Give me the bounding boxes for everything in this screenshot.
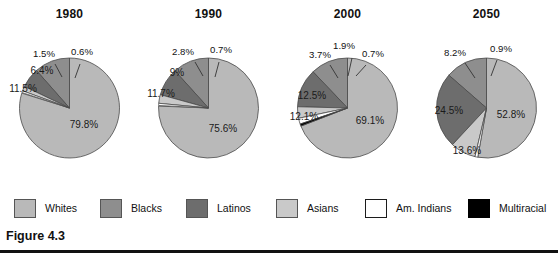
legend-swatch-blacks (100, 199, 122, 218)
pie-label-2050-whites: 52.8% (497, 109, 525, 120)
legend-label-asians: Asians (307, 202, 339, 214)
legend-swatch-am-indians (365, 199, 387, 218)
legend-item-whites: Whites (14, 196, 77, 220)
pie-chart-row: 1980 79.8% 11.5% 6.4% 1.5% 0.6% 1990 (0, 0, 558, 188)
legend-item-multiracial: Multiracial (468, 196, 546, 220)
pie-svg-2050: 52.8% 13.6% 24.5% 8.2% 0.9% (417, 20, 556, 186)
figure-divider (0, 250, 558, 253)
legend-item-asians: Asians (276, 196, 339, 220)
pie-label-1990-latinos: 9% (170, 67, 185, 78)
pie-slices-2000 (298, 58, 398, 158)
pie-label-1990-whites: 75.6% (209, 123, 237, 134)
pie-label-2000-am-indians: 1.9% (333, 40, 355, 51)
pie-svg-1980: 79.8% 11.5% 6.4% 1.5% 0.6% (0, 20, 139, 186)
pie-label-2050-latinos: 24.5% (435, 105, 463, 116)
pie-title-2000: 2000 (278, 7, 417, 21)
pie-label-2000-asians: 3.7% (309, 49, 331, 60)
figure-container: 1980 79.8% 11.5% 6.4% 1.5% 0.6% 1990 (0, 0, 558, 257)
pie-chart-1990: 1990 75.6% 11.7% 9% 2.8% 0.7% (139, 0, 278, 188)
legend-label-blacks: Blacks (131, 202, 162, 214)
legend-label-multiracial: Multiracial (499, 202, 546, 214)
legend-label-latinos: Latinos (217, 202, 251, 214)
pie-svg-2000: 69.1% 12.1% 12.5% 3.7% 1.9% 0.7% (278, 20, 417, 186)
pie-label-1980-whites: 79.8% (70, 119, 98, 130)
legend-item-am-indians: Am. Indians (365, 196, 451, 220)
pie-label-1980-asians: 1.5% (33, 48, 55, 59)
figure-caption: Figure 4.3 (6, 229, 65, 243)
legend-swatch-multiracial (468, 199, 490, 218)
pie-label-1990-blacks: 11.7% (147, 88, 175, 99)
pie-label-2000-blacks: 12.1% (290, 111, 318, 122)
pie-label-2000-whites: 69.1% (356, 115, 384, 126)
pie-chart-2000: 2000 69.1% 12.1% 12.5% 3.7% 1.9% 0.7% (278, 0, 417, 188)
pie-title-1990: 1990 (139, 7, 278, 21)
pie-label-2050-am-indians: 0.9% (490, 43, 512, 54)
chart-legend: Whites Blacks Latinos Asians Am. Indians… (0, 196, 558, 226)
legend-item-blacks: Blacks (100, 196, 162, 220)
pie-label-1980-blacks: 11.5% (9, 83, 37, 94)
pie-label-1990-asians: 2.8% (172, 46, 194, 57)
pie-label-2050-asians: 8.2% (444, 47, 466, 58)
pie-label-1980-latinos: 6.4% (31, 65, 54, 76)
pie-label-1980-am-indians: 0.6% (71, 46, 93, 57)
legend-swatch-latinos (186, 199, 208, 218)
pie-label-2050-blacks: 13.6% (453, 145, 481, 156)
pie-chart-2050: 2050 52.8% 13.6% 24.5% 8.2% 0.9% (417, 0, 556, 188)
pie-label-2000-latinos: 12.5% (298, 90, 326, 101)
legend-label-am-indians: Am. Indians (396, 202, 451, 214)
pie-title-2050: 2050 (417, 7, 556, 21)
pie-title-1980: 1980 (0, 7, 139, 21)
legend-item-latinos: Latinos (186, 196, 251, 220)
legend-swatch-whites (14, 199, 36, 218)
pie-svg-1990: 75.6% 11.7% 9% 2.8% 0.7% (139, 20, 278, 186)
pie-label-2000-multiracial: 0.7% (362, 48, 384, 59)
pie-label-1990-am-indians: 0.7% (210, 44, 232, 55)
legend-swatch-asians (276, 199, 298, 218)
pie-chart-1980: 1980 79.8% 11.5% 6.4% 1.5% 0.6% (0, 0, 139, 188)
legend-label-whites: Whites (45, 202, 77, 214)
